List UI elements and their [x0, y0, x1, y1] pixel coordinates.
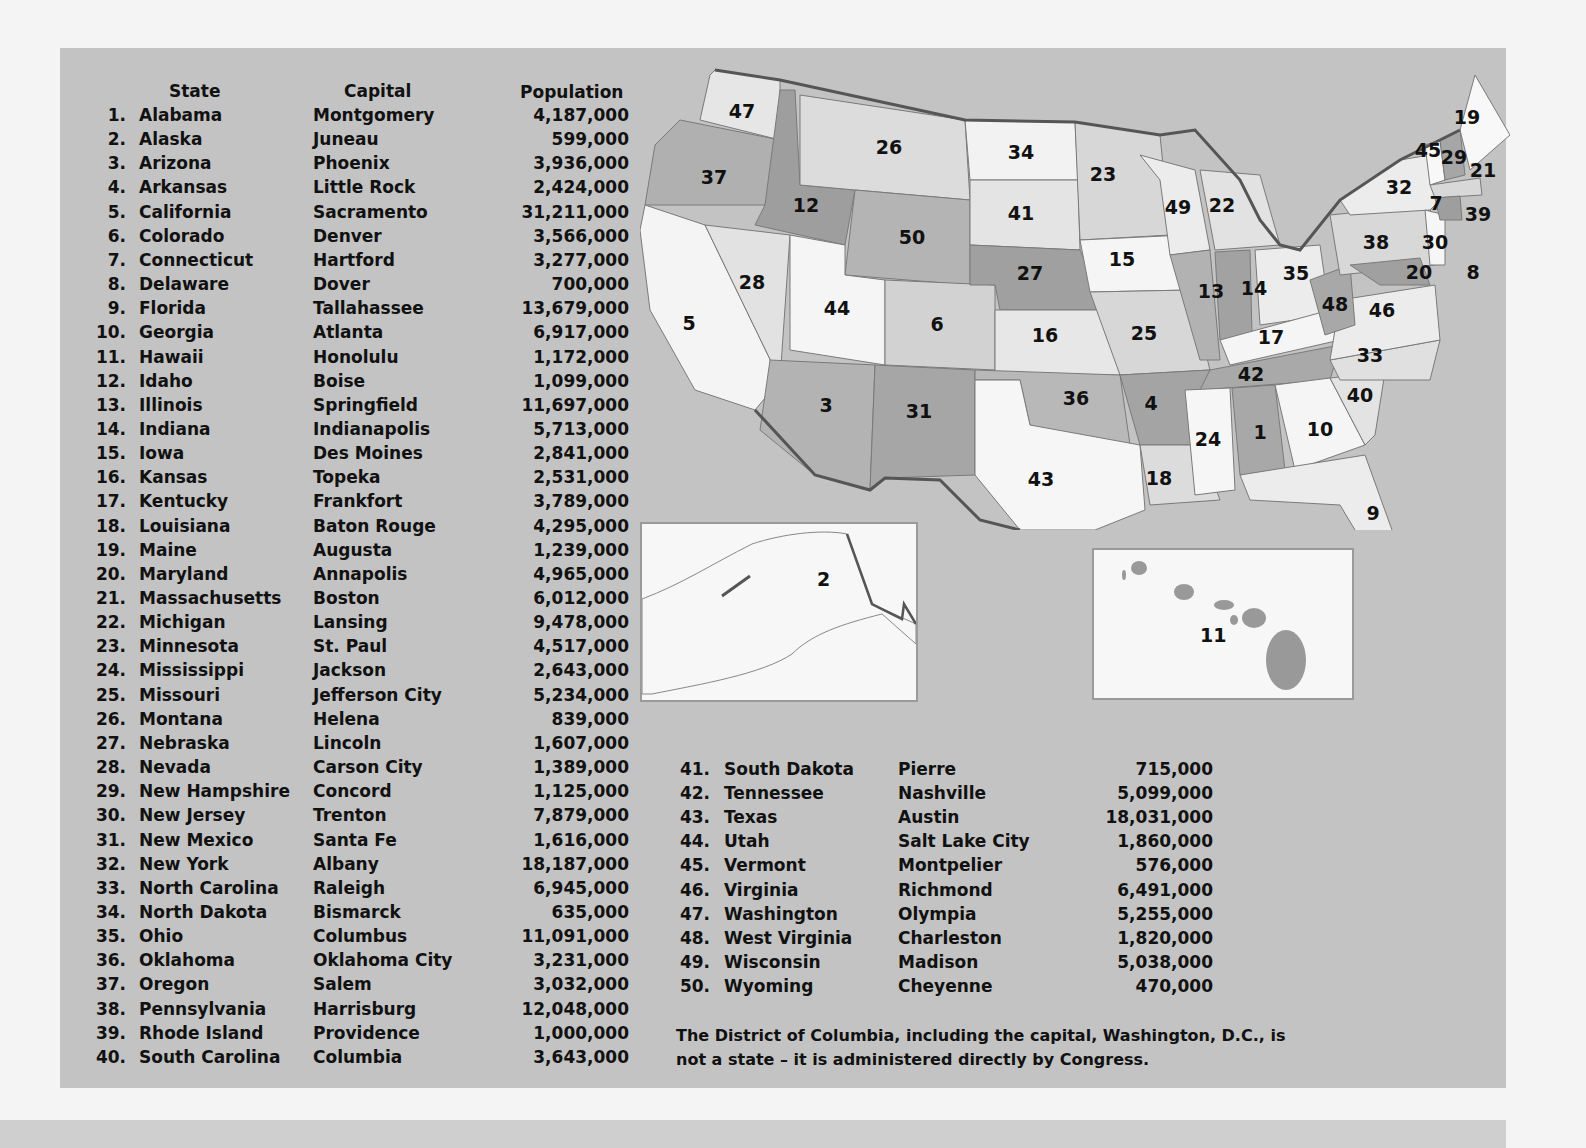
dc-footnote: The District of Columbia, including the …: [676, 1024, 1316, 1072]
map-state-label: 21: [1470, 159, 1496, 181]
state-capital: Richmond: [898, 880, 993, 900]
state-capital: Phoenix: [313, 153, 390, 173]
state-name: Iowa: [139, 443, 184, 463]
state-name: Indiana: [139, 419, 210, 439]
map-state-label: 10: [1307, 418, 1333, 440]
state-capital: Des Moines: [313, 443, 423, 463]
state-population: 5,255,000: [1083, 904, 1213, 924]
map-state-label: 23: [1090, 163, 1116, 185]
state-population: 576,000: [1083, 855, 1213, 875]
state-name: Rhode Island: [139, 1023, 264, 1043]
state-name: Missouri: [139, 685, 220, 705]
state-population: 3,936,000: [499, 153, 629, 173]
state-capital: Springfield: [313, 395, 418, 415]
map-state-label: 9: [1366, 502, 1379, 524]
state-capital: Bismarck: [313, 902, 401, 922]
state-number: 42.: [662, 783, 710, 803]
map-state-label: 26: [876, 136, 902, 158]
state-population: 1,000,000: [499, 1023, 629, 1043]
state-capital: Augusta: [313, 540, 392, 560]
state-capital: Indianapolis: [313, 419, 430, 439]
state-population: 9,478,000: [499, 612, 629, 632]
state-name: Tennessee: [724, 783, 824, 803]
state-population: 4,187,000: [499, 105, 629, 125]
state-name: Delaware: [139, 274, 229, 294]
state-name: Vermont: [724, 855, 806, 875]
state-number: 9.: [78, 298, 126, 318]
map-state-label: 38: [1363, 231, 1389, 253]
state-capital: Dover: [313, 274, 370, 294]
state-name: Massachusetts: [139, 588, 281, 608]
state-capital: Annapolis: [313, 564, 407, 584]
state-number: 31.: [78, 830, 126, 850]
state-population: 1,099,000: [499, 371, 629, 391]
state-population: 1,125,000: [499, 781, 629, 801]
state-name: New Hampshire: [139, 781, 290, 801]
state-capital: Denver: [313, 226, 382, 246]
map-state-label: 20: [1406, 261, 1432, 283]
state-number: 21.: [78, 588, 126, 608]
state-capital: Hartford: [313, 250, 395, 270]
state-population: 6,917,000: [499, 322, 629, 342]
state-population: 1,607,000: [499, 733, 629, 753]
map-state-label: 49: [1165, 196, 1191, 218]
map-state-label: 25: [1131, 322, 1157, 344]
state-population: 6,012,000: [499, 588, 629, 608]
map-state-label: 39: [1465, 203, 1491, 225]
state-population: 5,234,000: [499, 685, 629, 705]
state-name: Florida: [139, 298, 206, 318]
map-state-label: 27: [1017, 262, 1043, 284]
state-number: 49.: [662, 952, 710, 972]
map-state-label: 43: [1028, 468, 1054, 490]
map-state-label: 40: [1347, 384, 1373, 406]
state-number: 45.: [662, 855, 710, 875]
state-population: 4,295,000: [499, 516, 629, 536]
state-name: Maine: [139, 540, 197, 560]
state-capital: Honolulu: [313, 347, 399, 367]
state-name: Minnesota: [139, 636, 239, 656]
state-number: 18.: [78, 516, 126, 536]
state-number: 43.: [662, 807, 710, 827]
map-state-label: 18: [1146, 467, 1172, 489]
state-number: 19.: [78, 540, 126, 560]
map-state-label: 35: [1283, 262, 1309, 284]
state-capital: Olympia: [898, 904, 977, 924]
state-capital: Tallahassee: [313, 298, 424, 318]
state-number: 36.: [78, 950, 126, 970]
state-name: Arizona: [139, 153, 212, 173]
map-state-label: 16: [1032, 324, 1058, 346]
state-number: 37.: [78, 974, 126, 994]
state-name: Idaho: [139, 371, 193, 391]
state-population: 1,820,000: [1083, 928, 1213, 948]
state-name: New Jersey: [139, 805, 245, 825]
state-population: 11,697,000: [499, 395, 629, 415]
state-name: California: [139, 202, 231, 222]
state-name: Utah: [724, 831, 770, 851]
state-name: Pennsylvania: [139, 999, 266, 1019]
state-population: 11,091,000: [499, 926, 629, 946]
state-capital: Juneau: [313, 129, 379, 149]
state-capital: Concord: [313, 781, 392, 801]
header-state: State: [169, 81, 221, 101]
state-name: Georgia: [139, 322, 214, 342]
state-population: 2,841,000: [499, 443, 629, 463]
map-state-label: 42: [1238, 363, 1264, 385]
state-capital: St. Paul: [313, 636, 387, 656]
state-population: 1,389,000: [499, 757, 629, 777]
state-name: Maryland: [139, 564, 228, 584]
state-population: 1,616,000: [499, 830, 629, 850]
state-name: Arkansas: [139, 177, 227, 197]
state-population: 4,965,000: [499, 564, 629, 584]
state-number: 34.: [78, 902, 126, 922]
state-population: 3,277,000: [499, 250, 629, 270]
state-capital: Sacramento: [313, 202, 428, 222]
state-number: 46.: [662, 880, 710, 900]
hawaii-inset: 11: [1092, 548, 1354, 700]
state-name: North Carolina: [139, 878, 279, 898]
state-population: 6,945,000: [499, 878, 629, 898]
state-capital: Montpelier: [898, 855, 1002, 875]
state-number: 10.: [78, 322, 126, 342]
map-state-label: 8: [1466, 261, 1479, 283]
map-state-label: 30: [1422, 231, 1448, 253]
state-population: 635,000: [499, 902, 629, 922]
